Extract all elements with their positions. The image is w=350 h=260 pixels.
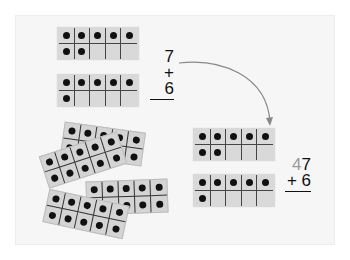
counter-dot-icon <box>50 173 59 182</box>
counter-dot-icon <box>246 133 253 140</box>
counter-dot-icon <box>91 186 98 193</box>
counter-dot-icon <box>60 153 69 162</box>
frame-cell <box>257 129 273 145</box>
ten-frame-six <box>57 74 139 107</box>
frame-cell <box>106 44 122 60</box>
counter-dot-icon <box>123 185 130 192</box>
counter-dot-icon <box>67 198 75 206</box>
frame-cell <box>75 75 91 91</box>
counter-dot-icon <box>63 95 70 102</box>
counter-dot-icon <box>95 221 103 229</box>
counter-dot-icon <box>130 152 138 160</box>
addend-bottom-right: + 6 <box>285 173 311 189</box>
frame-cell <box>59 28 75 44</box>
frame-cell <box>226 175 242 191</box>
counter-dot-icon <box>110 79 117 86</box>
frame-cell <box>226 145 242 161</box>
counter-dot-icon <box>214 133 221 140</box>
frame-cell <box>211 191 227 207</box>
counter-dot-icon <box>111 224 119 232</box>
counter-dot-icon <box>96 158 105 167</box>
counter-dot-icon <box>199 133 206 140</box>
frame-cell <box>150 180 167 197</box>
counter-dot-icon <box>65 168 74 177</box>
frame-cell <box>106 28 122 44</box>
counter-dot-icon <box>262 133 269 140</box>
frame-cell <box>106 219 125 238</box>
frame-cell <box>242 129 258 145</box>
counter-dot-icon <box>94 79 101 86</box>
counter-dot-icon <box>63 48 70 55</box>
counter-dot-icon <box>111 153 120 162</box>
frame-cell <box>121 28 137 44</box>
frame-cell <box>226 191 242 207</box>
counter-dot-icon <box>78 79 85 86</box>
counter-dot-icon <box>64 214 72 222</box>
frame-cell <box>90 91 106 107</box>
frame-cell <box>118 181 135 198</box>
frame-cell <box>257 145 273 161</box>
frame-cell <box>121 75 137 91</box>
counter-dot-icon <box>155 184 162 191</box>
addition-problem-right: 47 + 6 <box>285 157 311 192</box>
frame-cell <box>195 129 211 145</box>
counter-dot-icon <box>75 148 84 157</box>
counter-dot-icon <box>139 184 146 191</box>
ten-frame-seven-right <box>193 128 275 161</box>
frame-cell <box>59 44 75 60</box>
frame-cell <box>211 175 227 191</box>
addend-bottom: + 6 <box>150 65 174 97</box>
counter-dot-icon <box>91 143 100 152</box>
counter-dot-icon <box>81 163 90 172</box>
frame-cell <box>242 175 258 191</box>
frame-cell <box>90 75 106 91</box>
frame-cell <box>59 75 75 91</box>
counter-dot-icon <box>214 179 221 186</box>
counter-dot-icon <box>106 138 115 147</box>
counter-dot-icon <box>126 32 133 39</box>
counter-dot-icon <box>230 179 237 186</box>
counter-dot-icon <box>262 179 269 186</box>
counter-dot-icon <box>63 79 70 86</box>
frame-cell <box>86 182 103 199</box>
frame-cell <box>195 175 211 191</box>
counter-dot-icon <box>110 32 117 39</box>
ten-frame-seven <box>57 27 139 60</box>
frame-cell <box>75 91 91 107</box>
counter-dot-icon <box>63 32 70 39</box>
frame-cell <box>151 196 168 213</box>
frame-cell <box>90 28 106 44</box>
counter-dot-icon <box>132 136 140 144</box>
counter-dot-icon <box>80 218 88 226</box>
frame-cell <box>121 44 137 60</box>
frame-cell <box>75 28 91 44</box>
frame-cell <box>195 191 211 207</box>
frame-cell <box>211 129 227 145</box>
frame-cell <box>257 191 273 207</box>
counter-dot-icon <box>52 195 60 203</box>
counter-dot-icon <box>156 200 163 207</box>
frame-cell <box>195 145 211 161</box>
counter-dot-icon <box>139 201 146 208</box>
frame-cell <box>59 91 75 107</box>
counter-dot-icon <box>199 195 206 202</box>
ten-frame-six-right <box>193 174 275 207</box>
frame-cell <box>242 145 258 161</box>
counter-dot-icon <box>99 205 107 213</box>
frame-cell <box>242 191 258 207</box>
frame-cell <box>135 196 152 213</box>
counter-dot-icon <box>246 179 253 186</box>
counter-dot-icon <box>48 211 56 219</box>
counter-dot-icon <box>214 149 221 156</box>
frame-cell <box>75 44 91 60</box>
counter-dot-icon <box>199 149 206 156</box>
frame-cell <box>211 145 227 161</box>
counter-dot-icon <box>94 32 101 39</box>
counter-dot-icon <box>83 201 91 209</box>
counter-dot-icon <box>230 133 237 140</box>
frame-cell <box>106 91 122 107</box>
sum-rule <box>150 99 174 100</box>
curved-arrow-icon <box>175 60 275 130</box>
frame-cell <box>226 129 242 145</box>
addition-problem-left: 7 + 6 <box>150 49 174 100</box>
